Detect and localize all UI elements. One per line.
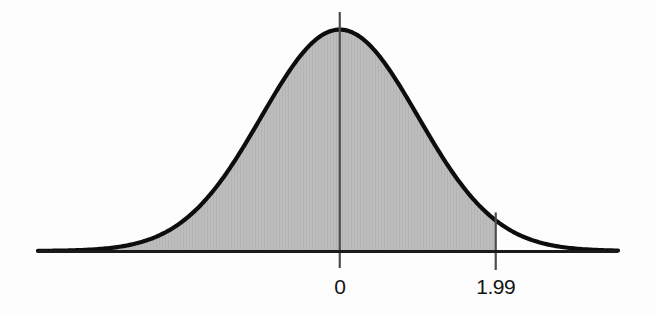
- shaded-area-under-curve: [38, 30, 496, 251]
- plot-area: [0, 0, 656, 315]
- x-tick-label-zero: 0: [334, 276, 345, 297]
- normal-distribution-figure: 0 1.99: [0, 0, 656, 315]
- x-tick-label-critical-value: 1.99: [476, 276, 515, 297]
